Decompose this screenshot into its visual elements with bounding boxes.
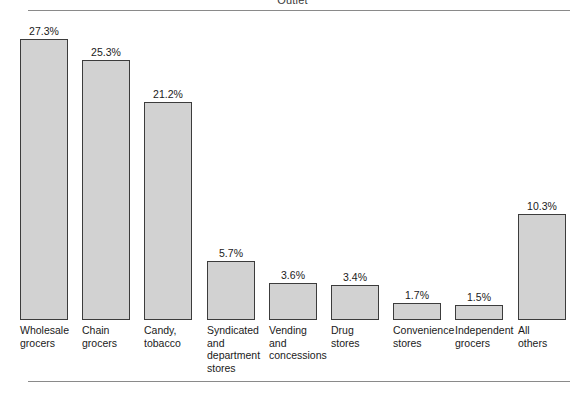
category-tick-label-line: and	[269, 337, 317, 350]
bar	[20, 39, 68, 320]
category-tick-label-line: concessions	[269, 349, 317, 362]
category-tick-label: Candy,tobacco	[144, 324, 192, 349]
category-tick-label-line: Independent	[455, 324, 503, 337]
bar-group: 21.2%Candy,tobacco	[144, 102, 192, 320]
bar-group: 27.3%Wholesalegrocers	[20, 39, 68, 320]
bar	[331, 285, 379, 320]
category-tick-label-line: Vending	[269, 324, 317, 337]
category-tick-label: Syndicatedanddepartmentstores	[207, 324, 255, 374]
bar-value-label: 1.7%	[405, 290, 429, 301]
category-tick-label-line: Wholesale	[20, 324, 68, 337]
category-tick-label-line: tobacco	[144, 337, 192, 350]
category-tick-label-line: stores	[331, 337, 379, 350]
category-tick-label-line: stores	[393, 337, 441, 350]
category-tick-label: Independentgrocers	[455, 324, 503, 349]
category-tick-label: Wholesalegrocers	[20, 324, 68, 349]
bar	[455, 305, 503, 320]
category-tick-label: Vendingandconcessions	[269, 324, 317, 362]
bar	[82, 60, 130, 320]
bar-group: 5.7%Syndicatedanddepartmentstores	[207, 261, 255, 320]
bar-value-label: 5.7%	[219, 248, 243, 259]
bar-value-label: 21.2%	[153, 89, 183, 100]
bar-value-label: 27.3%	[29, 26, 59, 37]
category-tick-label-line: and	[207, 337, 255, 350]
category-tick-label: Drugstores	[331, 324, 379, 349]
bar	[144, 102, 192, 320]
category-tick-label-line: stores	[207, 362, 255, 375]
bar-group: 10.3%Allothers	[518, 214, 566, 320]
category-tick-label: Chaingrocers	[82, 324, 130, 349]
category-tick-label-line: department	[207, 349, 255, 362]
category-tick-label: Conveniencestores	[393, 324, 441, 349]
bar-group: 1.7%Conveniencestores	[393, 303, 441, 320]
category-tick-label: Allothers	[518, 324, 566, 349]
bar	[207, 261, 255, 320]
category-tick-label-line: grocers	[82, 337, 130, 350]
bar-plot-area: 27.3%Wholesalegrocers25.3%Chaingrocers21…	[0, 0, 585, 393]
category-tick-label-line: Convenience	[393, 324, 441, 337]
category-tick-label-line: others	[518, 337, 566, 350]
category-tick-label-line: grocers	[20, 337, 68, 350]
category-tick-label-line: All	[518, 324, 566, 337]
chart-figure: Outlet 27.3%Wholesalegrocers25.3%Chaingr…	[0, 0, 585, 393]
bar-group: 3.4%Drugstores	[331, 285, 379, 320]
bar	[518, 214, 566, 320]
bar-group: 1.5%Independentgrocers	[455, 305, 503, 320]
bar-value-label: 3.6%	[281, 270, 305, 281]
bar-value-label: 10.3%	[527, 201, 557, 212]
category-tick-label-line: Candy,	[144, 324, 192, 337]
bar-value-label: 1.5%	[467, 292, 491, 303]
category-tick-label-line: Syndicated	[207, 324, 255, 337]
bar-group: 3.6%Vendingandconcessions	[269, 283, 317, 320]
bar-value-label: 25.3%	[91, 47, 121, 58]
category-tick-label-line: Chain	[82, 324, 130, 337]
bar	[269, 283, 317, 320]
category-tick-label-line: Drug	[331, 324, 379, 337]
category-tick-label-line: grocers	[455, 337, 503, 350]
bar	[393, 303, 441, 320]
bar-group: 25.3%Chaingrocers	[82, 60, 130, 320]
bar-value-label: 3.4%	[343, 272, 367, 283]
